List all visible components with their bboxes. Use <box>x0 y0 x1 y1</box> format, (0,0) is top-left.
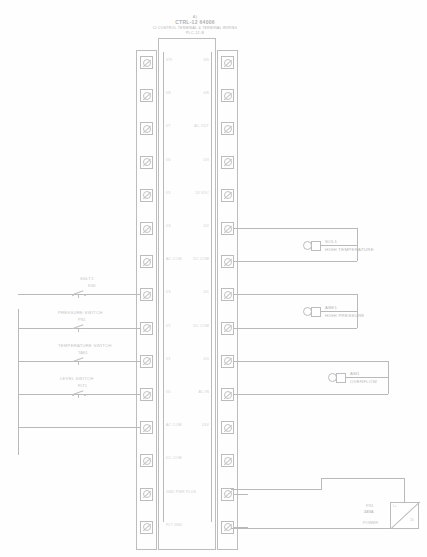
input-device-tag: KS0 <box>88 283 96 288</box>
terminal-screw-right[interactable] <box>221 454 234 467</box>
input-device-tag: PS1 <box>78 317 86 322</box>
terminal-screw-left[interactable] <box>140 521 153 534</box>
terminal-label-left: PLT GND <box>166 523 183 527</box>
output-wire-bottom <box>248 261 357 262</box>
output-device-lead <box>346 377 388 378</box>
power-supply-rating: 24VA <box>364 509 374 514</box>
terminal-screw-right[interactable] <box>221 421 234 434</box>
output-device-description: HIGH TEMPERATURE <box>325 247 374 252</box>
terminal-screw-left[interactable] <box>140 322 153 335</box>
terminal-screw-left[interactable] <box>140 255 153 268</box>
input-device-name: PRESSURE SWITCH <box>58 310 102 315</box>
terminal-screw-right[interactable] <box>221 89 234 102</box>
power-wire-return-horizontal <box>231 528 404 529</box>
terminal-screw-left[interactable] <box>140 156 153 169</box>
output-device-tag: ABE1 <box>325 305 337 310</box>
terminal-screw-left[interactable] <box>140 189 153 202</box>
terminal-screw-left[interactable] <box>140 454 153 467</box>
drawing-title-line-2: CTRL-12 64006 <box>145 19 245 25</box>
wiring-diagram-sheet: A) CTRL-12 64006 CI CONTROL TERMINAL & T… <box>0 0 427 557</box>
switch-contact-icon <box>72 323 86 332</box>
terminal-wire-right <box>234 394 248 395</box>
drawing-title-line-4: PLC-12-B <box>145 31 245 35</box>
drawing-title-line-3: CI CONTROL TERMINAL & TERMINAL WIRING <box>140 26 250 30</box>
output-device-lead <box>321 311 357 312</box>
input-device-name: LEVEL SWITCH <box>60 376 94 381</box>
terminal-screw-right[interactable] <box>221 322 234 335</box>
terminal-screw-left[interactable] <box>140 122 153 135</box>
terminal-screw-left[interactable] <box>140 388 153 401</box>
terminal-label-left: I/6 <box>166 158 171 162</box>
output-wire-right-riser <box>357 228 358 261</box>
terminal-label-right: DC COM <box>178 257 209 261</box>
terminal-label-right: 0/1 <box>178 290 209 294</box>
output-wire-right-riser <box>388 361 389 394</box>
terminal-wire-right <box>234 294 248 295</box>
output-wire-bottom <box>248 394 388 395</box>
terminal-screw-left[interactable] <box>140 89 153 102</box>
switch-contact-icon <box>72 356 86 365</box>
terminal-wire-right <box>234 328 248 329</box>
terminal-screw-right[interactable] <box>221 288 234 301</box>
terminal-screw-left[interactable] <box>140 288 153 301</box>
terminal-wire-right <box>234 361 248 362</box>
power-supply-input-marker: L+ <box>393 504 397 508</box>
terminal-screw-right[interactable] <box>221 388 234 401</box>
power-supply-tag: PS1 <box>366 503 374 508</box>
output-wire-right-riser <box>357 294 358 327</box>
terminal-label-left: I/1 <box>166 357 171 361</box>
terminal-label-right: 0/3 <box>178 158 209 162</box>
terminal-label-left: I/4 <box>166 224 171 228</box>
output-wire-top <box>248 361 388 362</box>
terminal-label-right: AC IN <box>178 390 209 394</box>
terminal-label-left: DC COM <box>166 456 182 460</box>
terminal-label-left: I/5 <box>166 191 171 195</box>
terminal-screw-left[interactable] <box>140 355 153 368</box>
power-supply-label: POWER <box>363 520 378 525</box>
module-inner-line-right <box>211 52 212 522</box>
terminal-label-right: 0/8 <box>178 91 209 95</box>
terminal-label-right: 0/2 <box>178 224 209 228</box>
terminal-wire-right <box>234 228 248 229</box>
output-device-tag: AM1 <box>350 371 360 376</box>
terminal-label-left: I/8 <box>166 91 171 95</box>
terminal-label-right: AC OUT <box>178 124 209 128</box>
switch-contact-icon <box>72 289 86 298</box>
input-device-tag: TAS1 <box>78 350 88 355</box>
power-supply-output-marker: 24 <box>410 518 414 522</box>
terminal-label-right: DC COM <box>178 324 209 328</box>
terminal-label-right: 24 VDC <box>178 191 209 195</box>
power-wire-riser <box>321 478 322 490</box>
power-wire-acin-horizontal <box>231 489 322 490</box>
output-indicator-icon <box>328 372 347 383</box>
output-wire-top <box>248 294 357 295</box>
terminal-screw-left[interactable] <box>140 488 153 501</box>
terminal-screw-left[interactable] <box>140 421 153 434</box>
terminal-wire-right <box>234 261 248 262</box>
terminal-label-left: GND PWR PLUS <box>166 490 196 494</box>
switch-contact-icon <box>72 389 86 398</box>
power-wire-top-horizontal <box>321 478 405 479</box>
terminal-screw-left[interactable] <box>140 56 153 69</box>
output-device-lead <box>321 245 357 246</box>
terminal-screw-right[interactable] <box>221 255 234 268</box>
terminal-label-left: V/9 <box>166 58 172 62</box>
terminal-label-right: 24V <box>178 423 209 427</box>
terminal-screw-right[interactable] <box>221 355 234 368</box>
terminal-label-left: I/7 <box>166 124 171 128</box>
terminal-screw-right[interactable] <box>221 222 234 235</box>
terminal-screw-right[interactable] <box>221 156 234 169</box>
output-device-tag: SOL1 <box>325 239 337 244</box>
terminal-screw-right[interactable] <box>221 189 234 202</box>
input-device-name: TEMPERATURE SWITCH <box>58 343 112 348</box>
terminal-screw-left[interactable] <box>140 222 153 235</box>
terminal-label-right: 0/9 <box>178 58 209 62</box>
terminal-label-left: I/3 <box>166 290 171 294</box>
input-device-name: SSLT1 <box>80 276 94 281</box>
output-device-description: OVERFLOW <box>350 379 377 384</box>
terminal-screw-right[interactable] <box>221 56 234 69</box>
output-wire-bottom <box>248 328 357 329</box>
terminal-label-right: 0/0 <box>178 357 209 361</box>
terminal-screw-right[interactable] <box>221 122 234 135</box>
terminal-wire-left <box>18 427 140 428</box>
